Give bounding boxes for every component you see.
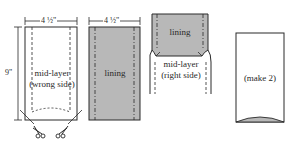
panel2-label: lining	[95, 68, 135, 78]
panel4-label: (make 2)	[238, 73, 282, 83]
panel1-width-label: 4 ½"	[40, 16, 57, 25]
panel3-lining-label: lining	[160, 27, 200, 37]
panel3-label-line2: (right side)	[155, 70, 207, 80]
scissors-icon	[33, 126, 45, 138]
panel1-label-line2: (wrong side)	[26, 79, 78, 89]
panel2-width-label: 4 ½"	[103, 16, 120, 25]
panel-assembled	[150, 14, 211, 94]
scissors-icon	[56, 126, 68, 138]
panel1-height-label: 9"	[4, 68, 13, 77]
panel1-label-line1: mid-layer	[28, 68, 76, 78]
panel3-label-line1: mid-layer	[156, 59, 206, 69]
